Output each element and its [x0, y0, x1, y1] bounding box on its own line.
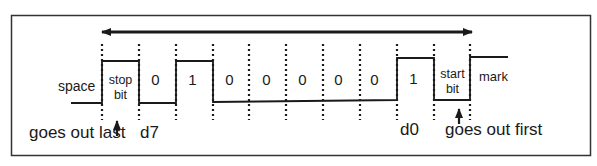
bit-d4: 0 — [248, 72, 285, 87]
bit-d7: 0 — [137, 72, 174, 87]
mark-label: mark — [479, 70, 508, 83]
stop-bit-line1: stop — [102, 73, 139, 88]
bit-d2: 0 — [320, 72, 357, 87]
d0-label: d0 — [400, 121, 419, 138]
stop-bit-line2: bit — [102, 88, 139, 103]
space-label: space — [58, 79, 95, 93]
bit-d6: 1 — [174, 72, 211, 87]
start-bit-line1: start — [434, 67, 471, 82]
d7-label: d7 — [140, 124, 159, 141]
serial-frame-diagram: space stop bit 0 1 0 0 0 0 0 1 start bit… — [0, 0, 597, 166]
goes-out-last-label: goes out last — [29, 124, 125, 141]
bit-d3: 0 — [284, 72, 321, 87]
bit-d5: 0 — [211, 72, 248, 87]
bit-d1: 0 — [356, 72, 393, 87]
start-bit-label: start bit — [434, 67, 471, 97]
goes-out-first-label: goes out first — [445, 121, 542, 138]
start-bit-line2: bit — [434, 82, 471, 97]
bit-d0: 1 — [395, 71, 432, 86]
stop-bit-label: stop bit — [102, 73, 139, 103]
